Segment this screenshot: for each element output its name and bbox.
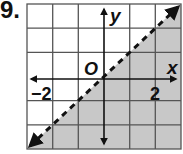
x-axis-label: x xyxy=(166,57,179,78)
y-axis-label: y xyxy=(109,5,122,26)
tick-label-neg2: −2 xyxy=(31,84,52,104)
origin-label: O xyxy=(84,59,98,79)
tick-label-2: 2 xyxy=(150,84,160,104)
inequality-graph: y x O −2 2 xyxy=(0,0,183,154)
